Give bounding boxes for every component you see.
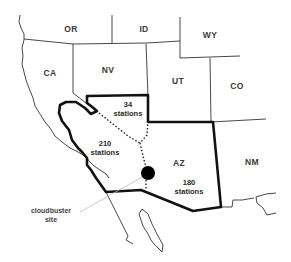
state-label-nv: NV — [102, 66, 114, 75]
state-label-co: CO — [230, 82, 243, 91]
station-count: 34 — [114, 100, 143, 109]
station-unit: stations — [91, 148, 120, 157]
state-label-az: AZ — [173, 159, 185, 168]
station-unit: stations — [175, 187, 204, 196]
region-label-nevada-south: 34 stations — [114, 100, 143, 118]
cloudbuster-pointer — [80, 176, 144, 212]
state-label-ut: UT — [172, 77, 184, 86]
region-label-arizona: 180 stations — [175, 178, 204, 196]
station-unit: stations — [114, 109, 143, 118]
state-label-nm: NM — [245, 158, 259, 167]
cloudbuster-site-label: cloudbuster site — [31, 206, 71, 224]
station-count: 180 — [175, 178, 204, 187]
state-label-id: ID — [139, 25, 148, 34]
cloudbuster-label-line1: cloudbuster — [31, 206, 71, 215]
cloudbuster-label-line2: site — [31, 215, 71, 224]
state-label-wy: WY — [203, 31, 217, 40]
region-label-california-south: 210 stations — [91, 139, 120, 157]
station-count: 210 — [91, 139, 120, 148]
cloudbuster-site-marker — [141, 166, 155, 180]
state-label-or: OR — [64, 25, 77, 34]
state-label-ca: CA — [44, 69, 57, 78]
